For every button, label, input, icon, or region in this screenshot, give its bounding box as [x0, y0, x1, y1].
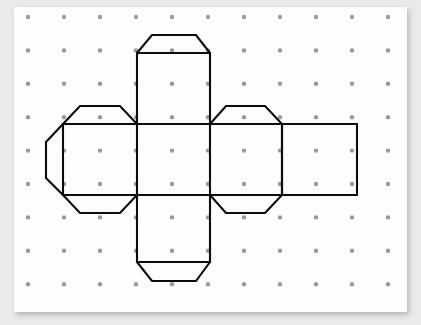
grid-dot: [98, 115, 102, 119]
cube-net-layer: [63, 53, 357, 262]
grid-dot: [386, 282, 390, 286]
grid-dot: [98, 249, 102, 253]
grid-dot: [350, 48, 354, 52]
grid-dot: [278, 48, 282, 52]
grid-dot: [314, 282, 318, 286]
grid-dot: [242, 282, 246, 286]
tab-left-bottom: [63, 195, 137, 213]
face-far-right-path: [282, 124, 357, 195]
grid-dot: [350, 249, 354, 253]
grid-dot: [170, 148, 174, 152]
tab-bottom-center: [137, 262, 210, 281]
grid-dot: [26, 115, 30, 119]
grid-dot: [242, 182, 246, 186]
tab-right-bottom: [210, 195, 282, 213]
grid-dot: [98, 282, 102, 286]
figure-canvas: [0, 0, 421, 325]
grid-dot: [350, 282, 354, 286]
dot-grid-layer: [26, 15, 390, 287]
grid-dot: [26, 82, 30, 86]
grid-dot: [314, 249, 318, 253]
grid-dot: [170, 115, 174, 119]
grid-dot: [98, 82, 102, 86]
grid-dot: [386, 15, 390, 19]
grid-dot: [386, 115, 390, 119]
grid-dot: [314, 115, 318, 119]
fold-lines-path: [63, 124, 357, 195]
grid-dot: [278, 15, 282, 19]
grid-dot: [206, 15, 210, 19]
grid-dot: [314, 215, 318, 219]
grid-dot: [26, 182, 30, 186]
grid-dot: [350, 215, 354, 219]
grid-dot: [242, 82, 246, 86]
grid-dot: [386, 148, 390, 152]
grid-dot: [386, 82, 390, 86]
grid-dot: [386, 48, 390, 52]
grid-dot: [350, 115, 354, 119]
grid-dot: [170, 249, 174, 253]
grid-dot: [98, 15, 102, 19]
grid-dot: [242, 48, 246, 52]
grid-dot: [278, 215, 282, 219]
tab-right-top: [210, 106, 282, 124]
grid-dot: [314, 182, 318, 186]
grid-dot: [170, 48, 174, 52]
grid-dot: [62, 82, 66, 86]
grid-dot: [242, 15, 246, 19]
grid-dot: [386, 249, 390, 253]
grid-dot: [26, 215, 30, 219]
grid-dot: [62, 115, 66, 119]
grid-dot: [134, 15, 138, 19]
grid-dot: [278, 249, 282, 253]
grid-dot: [170, 215, 174, 219]
grid-dot: [26, 48, 30, 52]
grid-dot: [62, 249, 66, 253]
grid-dot: [386, 215, 390, 219]
cube-net-figure: [0, 0, 421, 325]
grid-dot: [62, 282, 66, 286]
grid-dot: [170, 82, 174, 86]
grid-dot: [350, 148, 354, 152]
grid-dot: [26, 249, 30, 253]
grid-dot: [170, 282, 174, 286]
grid-dot: [98, 215, 102, 219]
grid-dot: [26, 15, 30, 19]
grid-dot: [98, 148, 102, 152]
grid-dot: [98, 48, 102, 52]
grid-dot: [350, 15, 354, 19]
grid-dot: [98, 182, 102, 186]
grid-dot: [62, 215, 66, 219]
grid-dot: [62, 15, 66, 19]
grid-dot: [242, 215, 246, 219]
grid-dot: [26, 282, 30, 286]
grid-dot: [170, 182, 174, 186]
grid-dot: [134, 282, 138, 286]
tab-left-point: [46, 124, 63, 195]
grid-dot: [314, 48, 318, 52]
grid-dot: [314, 148, 318, 152]
grid-dot: [314, 15, 318, 19]
grid-dot: [350, 82, 354, 86]
grid-dot: [206, 282, 210, 286]
grid-dot: [350, 182, 354, 186]
grid-dot: [170, 15, 174, 19]
glue-tabs-layer: [46, 35, 282, 281]
grid-dot: [62, 48, 66, 52]
grid-dot: [242, 115, 246, 119]
grid-dot: [26, 148, 30, 152]
grid-dot: [386, 182, 390, 186]
grid-dot: [242, 249, 246, 253]
grid-dot: [278, 282, 282, 286]
grid-dot: [278, 82, 282, 86]
grid-dot: [314, 82, 318, 86]
grid-dot: [242, 148, 246, 152]
